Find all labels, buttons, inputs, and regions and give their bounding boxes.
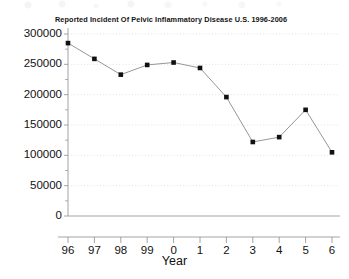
x-axis-tick-labels: 969798990123456 [0,0,349,279]
line-chart-figure: Reported Incident Of Pelvic Inflammatory… [0,0,349,279]
x-axis-title: Year [0,254,349,268]
